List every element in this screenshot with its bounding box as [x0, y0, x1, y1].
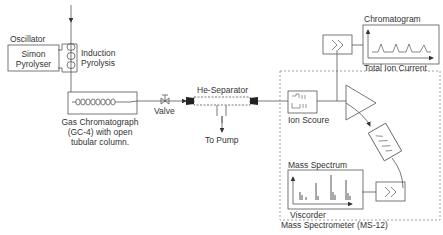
mass-spectrometer-label: Mass Spectrometer (MS-12) — [281, 220, 388, 230]
chromatogram-trace — [372, 44, 431, 52]
separator-inlet-connector — [186, 97, 194, 105]
top-amplifier-box — [323, 35, 352, 54]
valve-icon — [161, 95, 169, 104]
valve-label: Valve — [154, 106, 175, 116]
ion-source-box — [288, 91, 317, 113]
gc-column-icon — [72, 99, 137, 105]
pyrolyser-label-1: Simon — [8, 49, 59, 59]
pyrolyser-label-2: Pyrolyser — [8, 59, 59, 69]
he-separator-box — [194, 97, 250, 105]
total-ion-current-label: Total Ion Current — [364, 63, 427, 73]
viscorder-label: Viscorder — [290, 210, 326, 220]
mass-spectrum-peaks — [300, 175, 350, 200]
oscillator-label: Oscillator — [10, 34, 45, 44]
mass-spectrum-box — [288, 170, 363, 209]
gc-label-3: tubular column. — [50, 137, 150, 147]
bottom-amplifier-box — [376, 182, 405, 201]
collector-box — [368, 123, 401, 161]
separator-outlet-connector — [250, 97, 258, 105]
to-pump-label: To Pump — [205, 135, 239, 145]
gc-label-2: (GC-4) with open — [50, 127, 150, 137]
induction-label-2: Pyrolysis — [81, 58, 115, 68]
chromatogram-label: Chromatogram — [364, 14, 421, 24]
he-separator-label: He-Separator — [197, 85, 248, 95]
mass-spectrum-label: Mass Spectrum — [288, 160, 347, 170]
gc-box — [68, 92, 137, 114]
induction-label-1: Induction — [81, 48, 116, 58]
ion-source-label: Ion Scoure — [288, 115, 329, 125]
gc-label-1: Gas Chromatograph — [50, 117, 150, 127]
